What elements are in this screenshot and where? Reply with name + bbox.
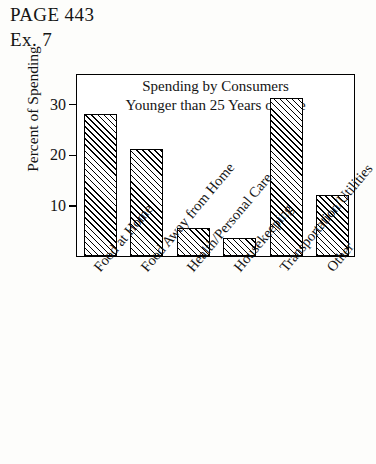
bar — [84, 114, 117, 256]
y-axis-tick-label: 10 — [50, 198, 66, 214]
y-axis-tick-label: 20 — [50, 147, 66, 163]
y-axis-tick-label: 30 — [50, 97, 66, 113]
y-axis-title: Percent of Spending — [24, 14, 42, 204]
